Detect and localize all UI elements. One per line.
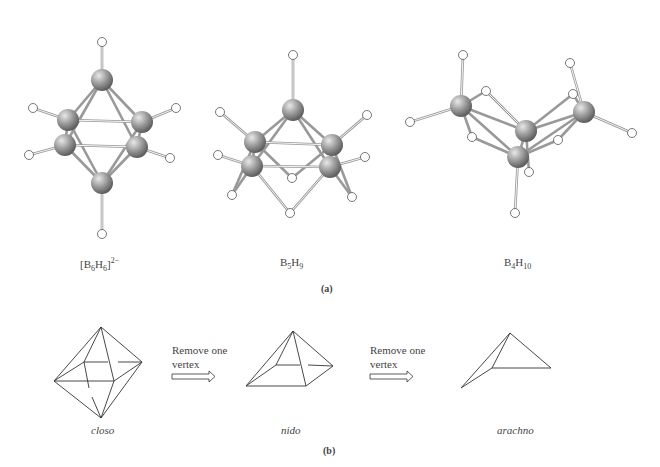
arrow-note-line: vertex xyxy=(370,357,425,371)
molecule-b6h6 xyxy=(25,38,181,239)
label-b6h6: [B6H6]2− xyxy=(80,256,119,273)
label-arachno: arachno xyxy=(497,424,534,436)
label-nido: nido xyxy=(281,424,301,436)
label-closo: closo xyxy=(91,424,114,436)
formula-text: H xyxy=(95,258,103,270)
arrow-closo-to-nido xyxy=(172,371,215,382)
part-a-label: (a) xyxy=(321,283,333,294)
molecule-b5h9 xyxy=(214,51,372,218)
borane-structures-diagram xyxy=(0,0,660,467)
closo-octahedron-shape xyxy=(54,327,142,418)
arrow-note-line: vertex xyxy=(172,357,227,371)
arrow-nido-to-arachno xyxy=(370,371,413,382)
part-b-label: (b) xyxy=(323,445,335,456)
formula-superscript: 2− xyxy=(111,256,120,265)
formula-text: [B xyxy=(80,258,91,270)
arrow-note-1: Remove one vertex xyxy=(172,343,227,371)
formula-subscript: 10 xyxy=(523,262,531,271)
label-b5h9: B5H9 xyxy=(280,256,303,271)
arrow-note-line: Remove one xyxy=(370,343,425,357)
molecule-b4h10 xyxy=(406,51,637,218)
arrow-note-line: Remove one xyxy=(172,343,227,357)
formula-subscript: 9 xyxy=(299,262,303,271)
label-b4h10: B4H10 xyxy=(504,256,531,271)
nido-pyramid-shape xyxy=(246,331,333,386)
arrow-note-2: Remove one vertex xyxy=(370,343,425,371)
arachno-shape xyxy=(461,333,551,388)
